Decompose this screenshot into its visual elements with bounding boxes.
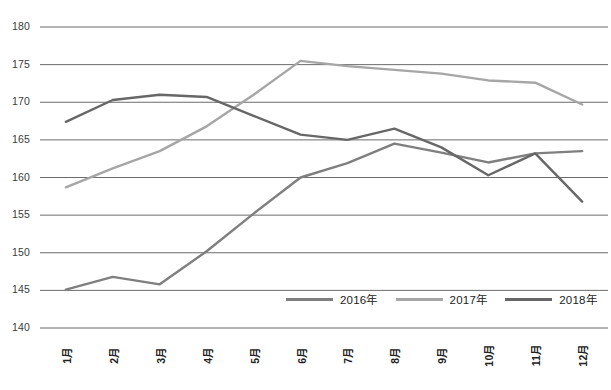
x-tick-label: 10月 bbox=[481, 336, 496, 376]
series-line-2018年 bbox=[66, 95, 582, 202]
series-line-2016年 bbox=[66, 144, 582, 290]
data-series-group bbox=[66, 61, 582, 290]
legend-swatch-icon bbox=[286, 298, 333, 301]
line-chart: 180175170165160155150145140 1月2月3月4月5月6月… bbox=[0, 0, 611, 390]
y-tick-label: 145 bbox=[4, 283, 30, 295]
x-tick-label: 1月 bbox=[58, 336, 73, 376]
x-tick-label: 4月 bbox=[199, 336, 214, 376]
gridlines bbox=[40, 27, 608, 328]
x-tick-label: 8月 bbox=[387, 336, 402, 376]
x-tick-label: 12月 bbox=[575, 336, 590, 376]
legend-label: 2016年 bbox=[340, 291, 378, 307]
y-tick-label: 155 bbox=[4, 208, 30, 220]
legend-label: 2018年 bbox=[559, 291, 597, 307]
legend-swatch-icon bbox=[396, 298, 443, 301]
y-tick-label: 165 bbox=[4, 133, 30, 145]
x-tick-label: 7月 bbox=[340, 336, 355, 376]
legend-item-2018年[interactable]: 2018年 bbox=[505, 291, 597, 307]
y-tick-label: 175 bbox=[4, 58, 30, 70]
x-tick-label: 9月 bbox=[434, 336, 449, 376]
x-tick-label: 6月 bbox=[293, 336, 308, 376]
y-tick-label: 140 bbox=[4, 321, 30, 333]
y-tick-label: 160 bbox=[4, 171, 30, 183]
y-tick-label: 180 bbox=[4, 20, 30, 32]
x-tick-label: 3月 bbox=[152, 336, 167, 376]
y-tick-label: 170 bbox=[4, 95, 30, 107]
legend-swatch-icon bbox=[505, 298, 552, 301]
chart-legend: 2016年2017年2018年 bbox=[286, 291, 597, 307]
x-tick-label: 5月 bbox=[246, 336, 261, 376]
plot-area bbox=[0, 0, 611, 390]
legend-item-2016年[interactable]: 2016年 bbox=[286, 291, 378, 307]
legend-label: 2017年 bbox=[450, 291, 488, 307]
y-tick-label: 150 bbox=[4, 246, 30, 258]
legend-item-2017年[interactable]: 2017年 bbox=[396, 291, 488, 307]
x-tick-label: 2月 bbox=[105, 336, 120, 376]
x-tick-label: 11月 bbox=[528, 336, 543, 376]
